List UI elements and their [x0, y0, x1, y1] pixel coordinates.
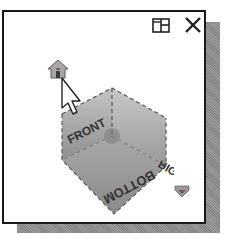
window-layout-icon[interactable]	[152, 18, 170, 33]
mouse-cursor-icon	[60, 76, 86, 118]
menu-chevron-icon[interactable]	[174, 184, 190, 198]
viewcube-corner-highlight	[104, 128, 120, 144]
panel-shadow-right	[205, 22, 220, 233]
panel-shadow-bottom	[17, 223, 220, 233]
viewcube-panel: FRONT RIGHT BOTTOM	[2, 10, 206, 224]
close-icon[interactable]	[184, 16, 202, 34]
